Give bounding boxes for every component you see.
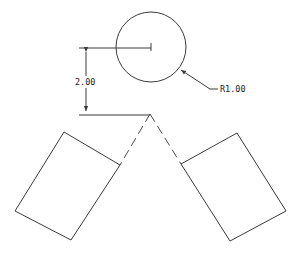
dimension-label-2: 2.00 xyxy=(75,77,95,87)
construction-line-left xyxy=(120,114,150,165)
cad-drawing: 2.00 R1.00 xyxy=(0,0,302,255)
construction-line-right xyxy=(150,114,181,164)
right-block xyxy=(181,133,286,241)
radius-label: R1.00 xyxy=(220,84,246,94)
radius-leader xyxy=(181,70,210,89)
left-block xyxy=(15,132,120,240)
